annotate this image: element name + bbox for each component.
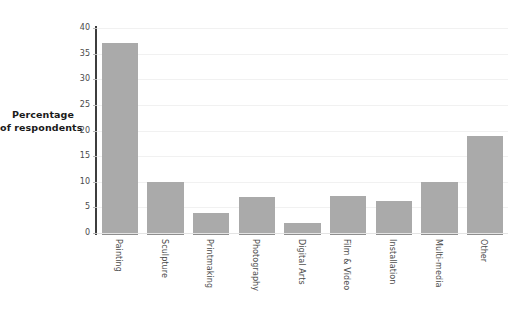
bar-baseline — [284, 234, 321, 236]
bar — [239, 197, 276, 233]
x-tick-label: Sculpture — [160, 239, 169, 278]
bar-baseline — [193, 234, 230, 236]
x-tick-label: Multi-media — [434, 239, 443, 287]
bar-baseline — [102, 234, 139, 236]
bar-baseline — [147, 234, 184, 236]
plot-area — [97, 28, 508, 233]
bar — [193, 213, 230, 234]
x-tick-label: Film & Video — [342, 239, 351, 290]
bar — [467, 136, 504, 233]
y-tick-label: 0 — [60, 229, 90, 237]
y-tick-label: 40 — [60, 24, 90, 32]
y-axis-title-line-1: Percentage — [0, 108, 74, 121]
x-tick-label: Painting — [114, 239, 123, 272]
bar-chart: Percentage of respondents 05101520253035… — [0, 0, 526, 314]
y-tick-mark — [93, 233, 97, 234]
y-tick-label: 20 — [60, 127, 90, 135]
y-tick-label: 30 — [60, 75, 90, 83]
x-tick-label: Photography — [251, 239, 260, 291]
x-tick-label: Other — [479, 239, 488, 262]
bar — [376, 201, 413, 233]
bar-baseline — [376, 234, 413, 236]
bar-baseline — [239, 234, 276, 236]
bar — [284, 223, 321, 233]
y-tick-label: 15 — [60, 152, 90, 160]
x-tick-label: Digital Arts — [297, 239, 306, 285]
bar — [147, 182, 184, 233]
bar-baseline — [421, 234, 458, 236]
y-tick-label: 10 — [60, 178, 90, 186]
y-tick-label: 25 — [60, 101, 90, 109]
bar — [330, 196, 367, 233]
y-tick-label: 5 — [60, 203, 90, 211]
bar-baseline — [467, 234, 504, 236]
bar — [421, 182, 458, 233]
x-tick-label: Installation — [388, 239, 397, 285]
x-tick-label: Printmaking — [205, 239, 214, 288]
bar — [102, 43, 139, 233]
bar-baseline — [330, 234, 367, 236]
y-tick-label: 35 — [60, 50, 90, 58]
